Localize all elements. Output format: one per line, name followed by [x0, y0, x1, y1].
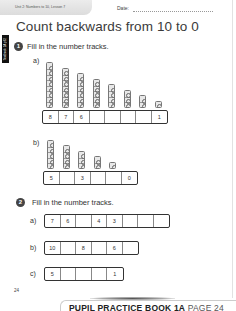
q2b-cell-4[interactable]	[92, 242, 108, 254]
banner-text: PUPIL PRACTICE BOOK 1A PAGE 24	[69, 303, 224, 311]
q2c-cell-2[interactable]	[61, 268, 77, 280]
q2c-cell-1: 5	[45, 268, 61, 280]
q1a-tower-5-cubes	[93, 79, 100, 109]
q1a-cell-8: 1	[152, 111, 168, 123]
cube-icon	[64, 164, 69, 169]
q1b-cell-5[interactable]	[106, 172, 122, 184]
q1a-tower-7-cubes	[62, 68, 69, 109]
q1b-tower-2-cubes	[94, 156, 101, 169]
q1b-tower-5-cubes	[47, 140, 54, 170]
question-2-instruction: Fill in the number tracks.	[32, 198, 114, 207]
cube-icon	[48, 164, 53, 169]
q2b-cell-5: 6	[107, 242, 123, 254]
page-number: 24	[14, 288, 19, 293]
q1b-tower-1-cubes	[109, 162, 116, 170]
textbook-reference-tab: Textbook 1A p62	[2, 35, 9, 63]
cube-icon	[94, 103, 99, 108]
q2a-cell-6[interactable]	[123, 215, 139, 227]
q2a-cell-1: 7	[45, 215, 61, 227]
q1b-tower-4-cubes	[63, 145, 70, 169]
q2a-number-track: 7643	[44, 214, 170, 228]
page-title: Count backwards from 10 to 0	[16, 19, 199, 34]
q1b-cell-3: 3	[75, 172, 91, 184]
q2c-cell-4[interactable]	[92, 268, 108, 280]
cube-icon	[95, 164, 100, 169]
q2a-cell-3[interactable]	[76, 215, 92, 227]
q2-part-a-label: a)	[30, 217, 36, 224]
q2b-cell-1: 10	[45, 242, 61, 254]
q1a-cell-7[interactable]	[136, 111, 152, 123]
q1b-cell-1: 5	[44, 172, 60, 184]
q1a-cell-5[interactable]	[105, 111, 121, 123]
q1a-tower-2-cubes	[139, 95, 146, 108]
question-1-badge: 1	[14, 42, 23, 51]
q2c-cell-3[interactable]	[76, 268, 92, 280]
q1a-cell-6[interactable]	[121, 111, 137, 123]
q2b-cell-3: 8	[76, 242, 92, 254]
question-1-instruction: Fill in the number tracks.	[27, 42, 109, 51]
q1a-cell-3: 6	[74, 111, 90, 123]
question-2-badge: 2	[16, 198, 25, 207]
cube-icon	[156, 103, 161, 108]
cube-icon	[140, 103, 145, 108]
q1b-tower-3-cubes	[78, 151, 85, 170]
cube-icon	[47, 103, 52, 108]
q1a-tower-3-cubes	[124, 90, 131, 109]
q2a-cell-2: 6	[61, 215, 77, 227]
textbook-reference-label: Textbook 1A p62	[3, 38, 7, 60]
q1b-cell-2[interactable]	[60, 172, 76, 184]
banner-book-title: PUPIL PRACTICE BOOK 1A	[69, 303, 185, 311]
q1a-tower-8-cubes	[46, 62, 53, 108]
date-label: Date:	[117, 5, 129, 11]
q2a-cell-5: 3	[107, 215, 123, 227]
q1a-cell-2: 7	[59, 111, 75, 123]
cube-icon	[109, 103, 114, 108]
q2-part-c-label: c)	[30, 270, 36, 277]
q2b-number-track: 1086	[44, 241, 139, 255]
cube-icon	[110, 164, 115, 169]
q2c-cell-5: 1	[107, 268, 123, 280]
q1a-number-track: 8761	[42, 110, 168, 124]
q1a-tower-1-cubes	[155, 101, 162, 109]
q2b-cell-2[interactable]	[61, 242, 77, 254]
banner-page-label: PAGE 24	[188, 303, 224, 311]
cube-icon	[79, 164, 84, 169]
cube-icon	[125, 103, 130, 108]
q2b-cell-6[interactable]	[123, 242, 139, 254]
q1a-cell-4[interactable]	[90, 111, 106, 123]
q1b-number-track: 530	[43, 171, 138, 185]
header-band: Unit 2: Numbers to 10, Lesson 7	[0, 0, 92, 15]
q1a-cell-1: 8	[43, 111, 59, 123]
unit-lesson-label: Unit 2: Numbers to 10, Lesson 7	[15, 5, 65, 9]
q2a-cell-4: 4	[92, 215, 108, 227]
q1-part-b-label: b)	[33, 139, 39, 146]
q2a-cell-7[interactable]	[138, 215, 154, 227]
date-field-line[interactable]	[133, 11, 213, 12]
q2-part-b-label: b)	[30, 244, 36, 251]
q1a-tower-4-cubes	[108, 84, 115, 108]
q1b-cell-4[interactable]	[91, 172, 107, 184]
cube-icon	[63, 103, 68, 108]
q2a-cell-8[interactable]	[154, 215, 170, 227]
q1-part-a-label: a)	[33, 57, 39, 64]
q1a-tower-6-cubes	[77, 73, 84, 108]
cube-icon	[78, 103, 83, 108]
q1b-cell-6: 0	[122, 172, 138, 184]
book-page-banner: PUPIL PRACTICE BOOK 1A PAGE 24	[60, 300, 236, 311]
q2c-number-track: 51	[44, 267, 124, 281]
worksheet-page: Unit 2: Numbers to 10, Lesson 7 Date: Te…	[0, 0, 233, 298]
